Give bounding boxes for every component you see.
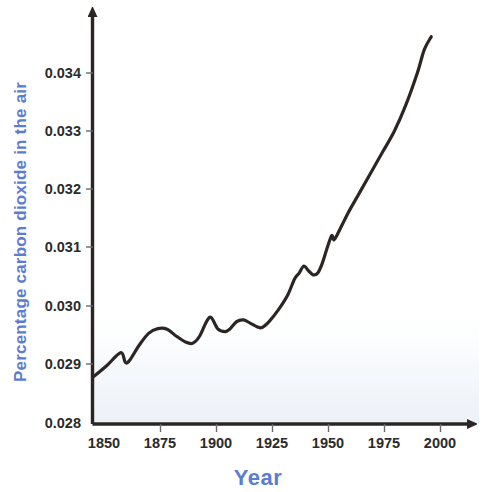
- y-axis-title: Percentage carbon dioxide in the air: [11, 82, 30, 382]
- y-tick-label-0.032: 0.032: [45, 181, 81, 197]
- y-tick-label-0.031: 0.031: [45, 239, 81, 255]
- x-tick-label-1950: 1950: [312, 435, 344, 451]
- x-tick-label-1900: 1900: [200, 435, 232, 451]
- y-tick-label-0.028: 0.028: [45, 415, 81, 431]
- y-tick-label-0.030: 0.030: [45, 298, 81, 314]
- x-tick-label-1925: 1925: [256, 435, 288, 451]
- y-tick-label-0.034: 0.034: [45, 65, 81, 81]
- x-tick-label-1850: 1850: [88, 435, 120, 451]
- y-tick-label-0.033: 0.033: [45, 123, 81, 139]
- x-axis-title: Year: [234, 465, 283, 490]
- x-tick-label-2000: 2000: [424, 435, 456, 451]
- x-tick-label-1875: 1875: [144, 435, 176, 451]
- plot-background-tint: [93, 300, 479, 424]
- y-tick-label-0.029: 0.029: [45, 356, 81, 372]
- co2-line-chart: 0.034 0.033 0.032 0.031 0.030 0.029 0.02…: [0, 0, 489, 492]
- x-axis-tick-labels: 1850 1875 1900 1925 1950 1975 2000: [88, 435, 456, 451]
- y-axis-tick-labels: 0.034 0.033 0.032 0.031 0.030 0.029 0.02…: [45, 65, 81, 431]
- x-tick-label-1975: 1975: [368, 435, 400, 451]
- chart-figure: 0.034 0.033 0.032 0.031 0.030 0.029 0.02…: [0, 0, 489, 492]
